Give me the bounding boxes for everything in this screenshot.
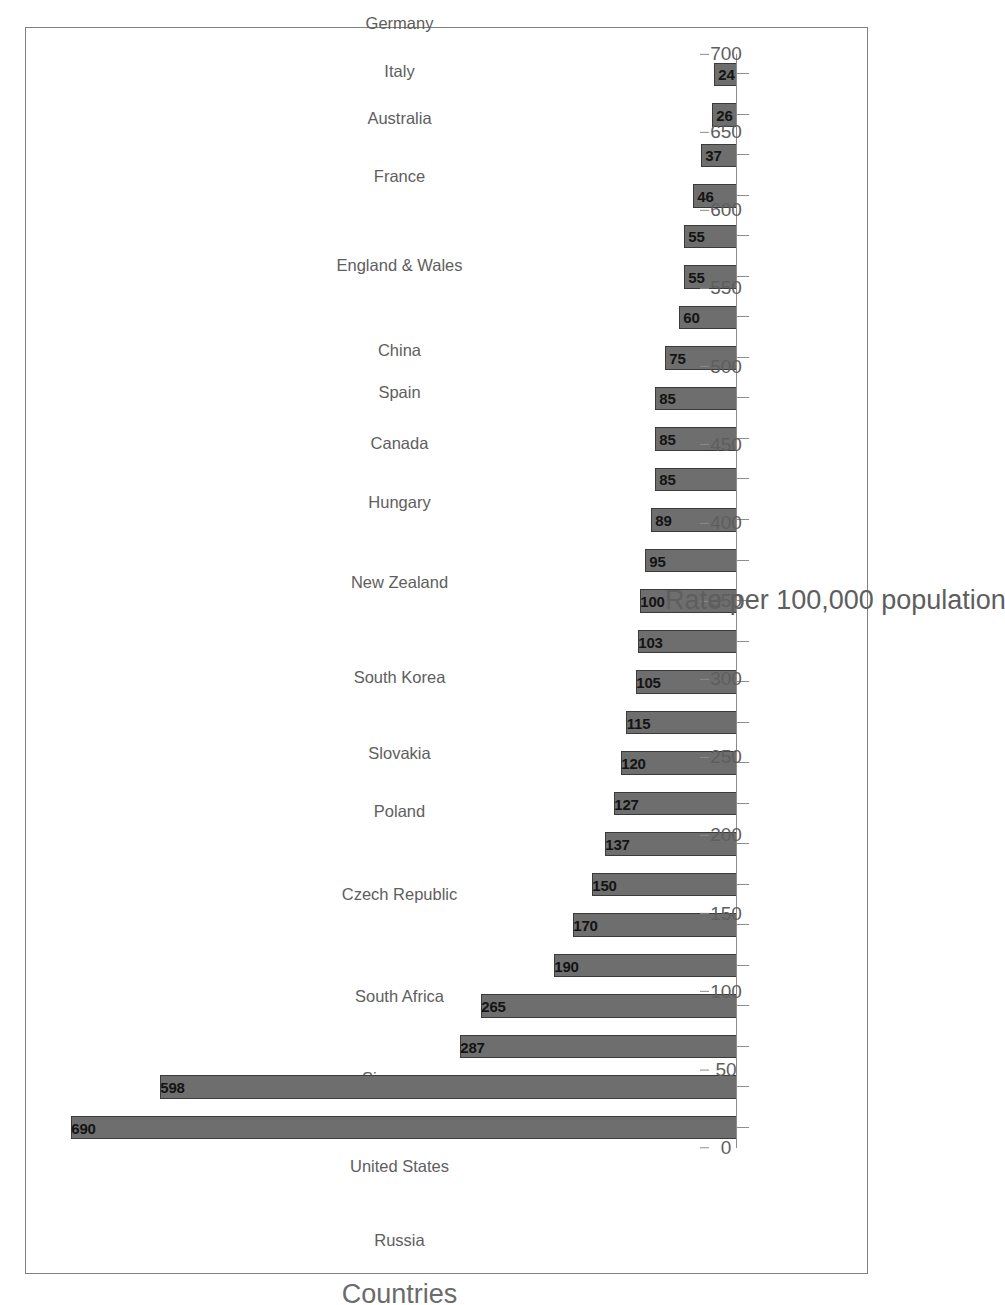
bar-value-label: 103 <box>637 633 661 650</box>
value-tick-label: 300 <box>710 668 742 690</box>
value-axis-tick: 700 <box>700 38 737 70</box>
value-axis-tick: 150 <box>700 897 737 929</box>
bar-value-label: 60 <box>683 308 699 325</box>
category-tick-mark <box>737 154 749 155</box>
bar-slot: 24 <box>61 54 737 95</box>
value-tick-line <box>700 287 709 288</box>
bar-slot: 598 <box>61 1066 737 1107</box>
category-tick-mark <box>737 478 749 479</box>
value-tick-line <box>700 366 709 367</box>
bar-slot: 95 <box>61 540 737 581</box>
bar-slot: 55 <box>61 216 737 257</box>
value-tick-line <box>700 913 709 914</box>
value-tick-label: 500 <box>710 355 742 377</box>
bar-chart: Countries RussiaUnited StatesSingaporeSo… <box>37 36 857 1266</box>
bar: 95 <box>645 548 737 571</box>
bar-slot: 150 <box>61 864 737 905</box>
bar: 60 <box>679 305 737 328</box>
value-tick-line <box>700 444 709 445</box>
category-tick-mark <box>737 1086 749 1087</box>
bar-slot: 137 <box>61 823 737 864</box>
value-tick-label: 250 <box>710 746 742 768</box>
value-tick-line <box>700 209 709 210</box>
bar-slot: 690 <box>61 1107 737 1148</box>
value-tick-line <box>700 1147 709 1148</box>
value-tick-label: 150 <box>710 902 742 924</box>
bar-slot: 115 <box>61 702 737 743</box>
value-axis-tick: 250 <box>700 741 737 773</box>
bar-slot: 190 <box>61 945 737 986</box>
bar-value-label: 690 <box>70 1119 94 1136</box>
value-axis-tick: 100 <box>700 975 737 1007</box>
bar-value-label: 37 <box>705 146 721 163</box>
bar-value-label: 100 <box>640 592 664 609</box>
bar-slot: 85 <box>61 378 737 419</box>
bar-slot: 26 <box>61 94 737 135</box>
bar-value-label: 598 <box>159 1078 183 1095</box>
bar-value-label: 287 <box>460 1038 484 1055</box>
value-axis-tick: 650 <box>700 116 737 148</box>
value-axis-tick: 0 <box>700 1142 737 1153</box>
value-axis-tick: 550 <box>700 272 737 304</box>
category-tick-mark <box>737 802 749 803</box>
category-tick-mark <box>737 113 749 114</box>
category-tick-mark <box>737 1126 749 1127</box>
bar-slot: 85 <box>61 459 737 500</box>
bar-value-label: 265 <box>481 997 505 1014</box>
value-axis-tick: 500 <box>700 350 737 382</box>
bar: 690 <box>70 1116 736 1139</box>
category-axis-title-text: Countries <box>341 1278 457 1305</box>
bar-value-label: 95 <box>649 552 665 569</box>
category-tick-mark <box>737 73 749 74</box>
bar-value-label: 190 <box>553 957 577 974</box>
bar-slot: 103 <box>61 621 737 662</box>
value-tick-label: 50 <box>715 1058 736 1080</box>
bar: 85 <box>654 386 736 409</box>
category-axis-labels: RussiaUnited StatesSingaporeSouth Africa… <box>61 1148 737 1266</box>
value-tick-label: 200 <box>710 824 742 846</box>
category-tick-mark <box>737 235 749 236</box>
value-axis-tick: 450 <box>700 428 737 460</box>
category-label-text: Russia <box>373 1231 423 1250</box>
value-axis-tick: 50 <box>700 1059 737 1080</box>
value-tick-label: 450 <box>710 433 742 455</box>
bar-slot: 100 <box>61 580 737 621</box>
value-tick-line <box>700 678 709 679</box>
chart-rotation-wrapper: Countries RussiaUnited StatesSingaporeSo… <box>37 36 857 1266</box>
bar-series: 6905982872651901701501371271201151051031… <box>61 54 737 1148</box>
bar-value-label: 120 <box>621 754 645 771</box>
value-tick-label: 0 <box>720 1137 731 1159</box>
bar: 287 <box>459 1034 736 1057</box>
value-tick-line <box>700 131 709 132</box>
category-tick-mark <box>737 397 749 398</box>
bar: 55 <box>683 224 736 247</box>
value-tick-line <box>700 522 709 523</box>
bar: 190 <box>553 953 736 976</box>
category-tick-mark <box>737 964 749 965</box>
value-tick-label: 700 <box>710 43 742 65</box>
value-axis-tick: 200 <box>700 819 737 851</box>
plot-area: 6905982872651901701501371271201151051031… <box>61 54 737 1148</box>
bar: 127 <box>614 791 737 814</box>
bar-slot: 85 <box>61 418 737 459</box>
bar-value-label: 85 <box>659 471 675 488</box>
bar-value-label: 127 <box>614 795 638 812</box>
bar-value-label: 75 <box>668 349 684 366</box>
bar-slot: 75 <box>61 337 737 378</box>
value-tick-line <box>700 756 709 757</box>
value-axis-tick: 400 <box>700 507 737 539</box>
category-label: Germany <box>61 0 737 56</box>
value-axis-tick: 600 <box>700 194 737 226</box>
bar-slot: 60 <box>61 297 737 338</box>
value-axis-tick: 300 <box>700 663 737 695</box>
category-label-text: United States <box>349 1156 448 1175</box>
bar-slot: 120 <box>61 742 737 783</box>
bar-value-label: 137 <box>604 835 628 852</box>
value-tick-label: 100 <box>710 980 742 1002</box>
category-label: Russia <box>61 1215 737 1265</box>
bar: 265 <box>481 994 737 1017</box>
bar-value-label: 89 <box>655 511 671 528</box>
bar-value-label: 85 <box>659 389 675 406</box>
bar: 115 <box>625 710 736 733</box>
bar-slot: 46 <box>61 175 737 216</box>
